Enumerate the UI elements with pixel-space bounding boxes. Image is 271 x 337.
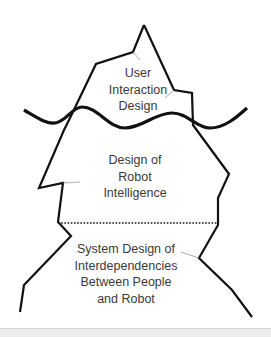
bottom-strip xyxy=(0,328,271,337)
label-line: Design of xyxy=(55,152,215,169)
label-line: Between People xyxy=(46,274,206,291)
label-line: Interaction xyxy=(58,82,218,99)
label-line: Robot xyxy=(55,169,215,186)
label-line: System Design of xyxy=(46,241,206,258)
label-line: and Robot xyxy=(46,291,206,308)
label-line: Intelligence xyxy=(55,185,215,202)
layer-label-user-interaction-design: User Interaction Design xyxy=(58,65,218,115)
label-line: Design xyxy=(58,98,218,115)
layer-label-system-interdependencies: System Design of Interdependencies Betwe… xyxy=(46,241,206,307)
layer-label-robot-intelligence: Design of Robot Intelligence xyxy=(55,152,215,202)
pointer-tick xyxy=(133,52,140,60)
label-line: Interdependencies xyxy=(46,258,206,275)
label-line: User xyxy=(58,65,218,82)
